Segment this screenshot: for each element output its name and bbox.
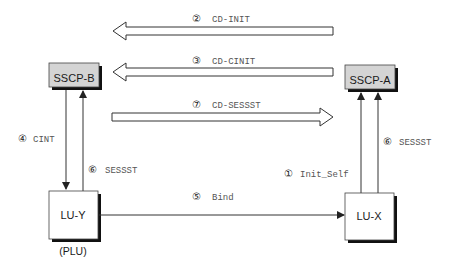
cd-sessst-label: CD-SESSST bbox=[212, 101, 261, 111]
sessst-left-label: SESSST bbox=[105, 166, 138, 176]
flow-7-cd-sessst-arrow: ⑦ CD-SESSST bbox=[112, 99, 333, 126]
node-sscp-b: SSCP-B bbox=[49, 63, 102, 90]
cd-cinit-label: CD-CINIT bbox=[212, 57, 256, 67]
plu-label: (PLU) bbox=[59, 245, 86, 257]
step-6-left-number: ⑥ bbox=[88, 164, 97, 175]
node-sscp-a: SSCP-A bbox=[345, 65, 398, 92]
step-6-right-number: ⑥ bbox=[383, 136, 392, 147]
step-7-number: ⑦ bbox=[192, 99, 201, 110]
cint-label: CINT bbox=[33, 135, 55, 145]
step-2-number: ② bbox=[192, 13, 201, 24]
flow-1-init-self-line: ① Init_Self bbox=[284, 93, 361, 193]
step-3-number: ③ bbox=[192, 55, 201, 66]
step-5-number: ⑤ bbox=[192, 191, 201, 202]
flow-3-cd-cinit-arrow: ③ CD-CINIT bbox=[113, 55, 333, 81]
node-lu-x: LU-X bbox=[345, 193, 397, 243]
cd-init-label: CD-INIT bbox=[212, 15, 250, 25]
sessst-right-label: SESSST bbox=[399, 138, 432, 148]
bind-label: Bind bbox=[212, 193, 234, 203]
step-1-number: ① bbox=[284, 168, 293, 179]
flow-6-sessst-left-line: ⑥ SESSST bbox=[83, 91, 138, 191]
sscp-b-label: SSCP-B bbox=[54, 72, 95, 84]
init-self-label: Init_Self bbox=[300, 170, 349, 180]
sna-session-setup-diagram: ② CD-INIT ③ CD-CINIT ⑦ CD-SESSST SSCP-B … bbox=[0, 0, 452, 269]
flow-6-sessst-right-line: ⑥ SESSST bbox=[378, 93, 432, 193]
sscp-a-label: SSCP-A bbox=[350, 74, 392, 86]
flow-5-bind-line: ⑤ Bind bbox=[99, 191, 344, 215]
lu-y-label: LU-Y bbox=[60, 209, 86, 221]
flow-4-cint-line: ④ CINT bbox=[18, 90, 66, 189]
step-4-number: ④ bbox=[18, 133, 27, 144]
flow-2-cd-init-arrow: ② CD-INIT bbox=[113, 13, 333, 40]
node-lu-y: LU-Y (PLU) bbox=[49, 191, 101, 257]
lu-x-label: LU-X bbox=[356, 210, 382, 222]
